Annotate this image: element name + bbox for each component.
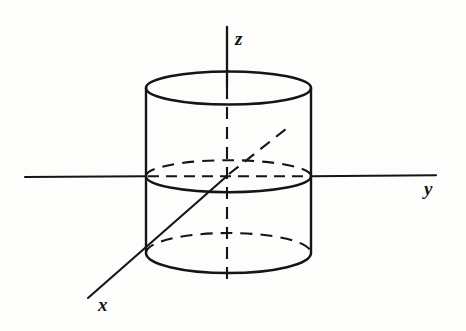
cylinder-bottom-rim: [146, 233, 311, 273]
bottom-rim-back-half: [146, 233, 311, 253]
z-axis-label: z: [234, 28, 243, 49]
x-axis-label: x: [97, 294, 108, 315]
x-axis-hidden-segment: [229, 125, 291, 174]
y-axis-group: [25, 175, 436, 177]
cylinder-top-rim: [146, 72, 311, 105]
x-axis-front-segment: [88, 176, 227, 298]
top-rim-ellipse: [146, 72, 311, 105]
y-axis-left-segment: [25, 176, 146, 177]
cylinder-walls-group: [146, 88, 311, 253]
y-axis-label: y: [422, 178, 433, 199]
cylinder-axes-diagram: z y x: [0, 0, 466, 331]
mid-trace-front-half: [146, 176, 311, 192]
mid-trace-back-half: [146, 160, 311, 176]
figure-canvas: z y x: [0, 0, 466, 331]
y-axis-right-segment: [311, 175, 436, 176]
bottom-rim-front-half: [146, 253, 311, 273]
